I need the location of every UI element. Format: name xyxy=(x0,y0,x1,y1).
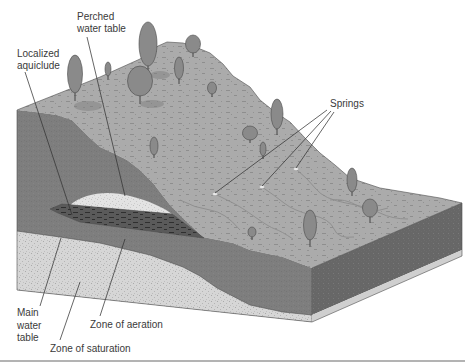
label-zone-of-saturation: Zone of saturation xyxy=(50,343,131,354)
label-perched-line1: Perched xyxy=(77,11,114,22)
label-zone-of-aeration: Zone of aeration xyxy=(90,319,163,330)
label-perched-line2: water table xyxy=(76,23,126,34)
label-main-water-table-line1: Main xyxy=(17,307,39,318)
label-main-water-table-line3: table xyxy=(17,332,39,343)
label-main-water-table-line2: water xyxy=(16,320,42,331)
label-localized-line1: Localized xyxy=(17,48,59,59)
spring-marker xyxy=(213,193,218,195)
label-localized-line2: aquiclude xyxy=(17,60,60,71)
tree-shadow xyxy=(140,100,164,108)
tree-shadow xyxy=(74,101,102,111)
tree-shadow xyxy=(150,71,170,79)
spring-marker xyxy=(260,186,265,188)
spring-marker xyxy=(294,168,299,170)
groundwater-block-diagram: Perched water table Localized aquiclude … xyxy=(0,0,465,363)
label-springs: Springs xyxy=(330,98,364,109)
